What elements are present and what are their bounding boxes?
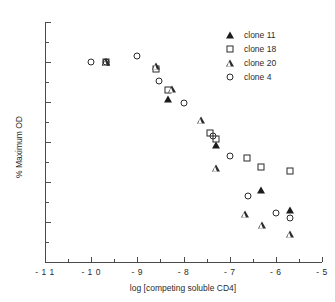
data-point-clone-11: [164, 96, 172, 103]
data-point-clone-4: [245, 193, 252, 200]
scatter-plot: - 1 1- 1 0- 9- 8- 7- 6- 5020406080100120…: [0, 0, 335, 302]
legend-marker-circle-open: [222, 70, 238, 84]
x-tick-label: - 5: [316, 267, 327, 277]
x-axis-title: log [competing soluble CD4]: [130, 283, 236, 293]
marker-triangle-filled: [226, 32, 234, 39]
data-point-clone-4: [209, 133, 216, 140]
data-point-clone-20: [152, 63, 160, 70]
data-point-clone-20: [197, 116, 205, 123]
y-tick-minor: [46, 122, 49, 123]
data-point-clone-18: [243, 154, 250, 161]
y-axis-title-wrap: % Maximum OD: [0, 0, 40, 302]
data-point-clone-18: [257, 164, 264, 171]
y-tick-major: [46, 262, 51, 263]
x-tick-minor: [160, 259, 161, 262]
x-tick-minor: [114, 259, 115, 262]
y-tick-major: [46, 102, 51, 103]
x-axis-line: [45, 262, 322, 263]
x-tick-major: [322, 257, 323, 262]
legend-item-clone-4: clone 4: [222, 70, 276, 84]
legend-label: clone 4: [244, 72, 271, 82]
y-tick-major: [46, 142, 51, 143]
legend-marker-triangle-open: [222, 56, 238, 70]
legend-item-clone-18: clone 18: [222, 42, 276, 56]
data-point-clone-18: [286, 167, 293, 174]
y-tick-minor: [46, 202, 49, 203]
y-tick-major: [46, 62, 51, 63]
legend-label: clone 11: [244, 30, 276, 40]
x-tick-major: [91, 257, 92, 262]
x-tick-label: - 7: [224, 267, 235, 277]
data-point-clone-4: [88, 59, 95, 66]
data-point-clone-4: [286, 215, 293, 222]
x-tick-major: [230, 257, 231, 262]
data-point-clone-4: [180, 100, 187, 107]
x-tick-minor: [68, 259, 69, 262]
x-tick-major: [137, 257, 138, 262]
x-tick-minor: [299, 259, 300, 262]
y-tick-major: [46, 22, 51, 23]
y-tick-minor: [46, 42, 49, 43]
x-tick-label: - 1 0: [81, 267, 101, 277]
x-tick-label: - 8: [178, 267, 189, 277]
data-point-clone-4: [226, 153, 233, 160]
data-point-clone-4: [272, 210, 279, 217]
data-points: [0, 0, 335, 56]
y-axis-title: % Maximum OD: [14, 87, 24, 207]
data-point-clone-20: [168, 86, 176, 93]
x-tick-label: - 6: [270, 267, 281, 277]
legend-label: clone 18: [244, 44, 276, 54]
legend: clone 11clone 18clone 20clone 4: [222, 28, 276, 84]
marker-square-open: [227, 46, 234, 53]
y-tick-major: [46, 222, 51, 223]
data-point-clone-4: [156, 78, 163, 85]
data-point-clone-11: [212, 142, 220, 149]
data-point-clone-20: [241, 211, 249, 218]
legend-item-clone-11: clone 11: [222, 28, 276, 42]
x-tick-major: [184, 257, 185, 262]
x-tick-label: - 9: [132, 267, 143, 277]
data-point-clone-20: [258, 222, 266, 229]
x-tick-minor: [253, 259, 254, 262]
y-tick-minor: [46, 242, 49, 243]
data-point-clone-11: [286, 207, 294, 214]
x-tick-minor: [207, 259, 208, 262]
legend-label: clone 20: [244, 58, 276, 68]
data-point-clone-20: [286, 231, 294, 238]
data-point-clone-11: [257, 187, 265, 194]
data-point-clone-20: [212, 165, 220, 172]
marker-circle-open: [227, 74, 234, 81]
x-tick-major: [276, 257, 277, 262]
legend-marker-triangle-filled: [222, 28, 238, 42]
y-tick-minor: [46, 82, 49, 83]
data-point-clone-4: [102, 59, 109, 66]
marker-triangle-open: [226, 60, 234, 67]
legend-item-clone-20: clone 20: [222, 56, 276, 70]
data-point-clone-4: [134, 53, 141, 60]
legend-marker-square-open: [222, 42, 238, 56]
y-tick-minor: [46, 162, 49, 163]
y-tick-major: [46, 182, 51, 183]
